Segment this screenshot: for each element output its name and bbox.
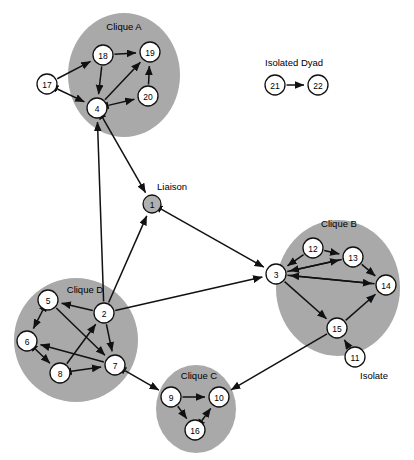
node-1-circle[interactable] — [143, 195, 161, 213]
edge-1-3 — [161, 209, 264, 267]
node-6-circle[interactable] — [17, 331, 37, 351]
node-16[interactable]: 16 — [185, 420, 205, 440]
annotation-isolated-dyad: Isolated Dyad — [265, 57, 323, 68]
node-16-circle[interactable] — [185, 420, 205, 440]
edge-2-4 — [97, 122, 103, 302]
node-4-circle[interactable] — [87, 98, 107, 118]
node-15-circle[interactable] — [327, 318, 347, 338]
edge-7-9 — [125, 371, 159, 390]
node-8[interactable]: 8 — [50, 363, 70, 383]
group-label-clique-c: Clique C — [181, 370, 218, 381]
node-17-circle[interactable] — [37, 74, 57, 94]
node-21-circle[interactable] — [265, 75, 285, 95]
edge-20-19 — [149, 66, 150, 85]
node-11-circle[interactable] — [345, 347, 365, 367]
node-12[interactable]: 12 — [303, 238, 323, 258]
node-10[interactable]: 10 — [209, 387, 229, 407]
node-13[interactable]: 13 — [343, 247, 363, 267]
node-18[interactable]: 18 — [93, 45, 113, 65]
node-1[interactable]: 1 — [143, 195, 161, 213]
node-9-circle[interactable] — [161, 387, 181, 407]
node-20-circle[interactable] — [138, 86, 158, 106]
node-22[interactable]: 22 — [308, 75, 328, 95]
edge-15-10 — [231, 334, 327, 390]
node-2[interactable]: 2 — [94, 303, 114, 323]
group-label-clique-d: Clique D — [67, 284, 104, 295]
node-20[interactable]: 20 — [138, 86, 158, 106]
node-11[interactable]: 11 — [345, 347, 365, 367]
edge-2-1 — [109, 216, 147, 303]
node-2-circle[interactable] — [94, 303, 114, 323]
group-label-clique-b: Clique B — [321, 218, 357, 229]
node-5[interactable]: 5 — [38, 290, 58, 310]
node-7[interactable]: 7 — [105, 355, 125, 375]
node-14[interactable]: 14 — [376, 275, 396, 295]
annotation-liaison: Liaison — [157, 181, 187, 192]
node-13-circle[interactable] — [343, 247, 363, 267]
node-8-circle[interactable] — [50, 363, 70, 383]
node-19[interactable]: 19 — [140, 42, 160, 62]
node-19-circle[interactable] — [140, 42, 160, 62]
node-3[interactable]: 3 — [266, 264, 286, 284]
clique-blobs — [14, 13, 400, 453]
node-5-circle[interactable] — [38, 290, 58, 310]
annotation-isolate: Isolate — [360, 370, 388, 381]
node-3-circle[interactable] — [266, 264, 286, 284]
node-22-circle[interactable] — [308, 75, 328, 95]
node-14-circle[interactable] — [376, 275, 396, 295]
edge-2-3 — [115, 277, 262, 310]
node-12-circle[interactable] — [303, 238, 323, 258]
network-svg: 12345678910111213141516171819202122 Cliq… — [0, 0, 414, 460]
node-10-circle[interactable] — [209, 387, 229, 407]
node-4[interactable]: 4 — [87, 98, 107, 118]
node-18-circle[interactable] — [93, 45, 113, 65]
node-21[interactable]: 21 — [265, 75, 285, 95]
node-17[interactable]: 17 — [37, 74, 57, 94]
node-7-circle[interactable] — [105, 355, 125, 375]
node-15[interactable]: 15 — [327, 318, 347, 338]
group-label-clique-a: Clique A — [106, 21, 142, 32]
node-6[interactable]: 6 — [17, 331, 37, 351]
node-9[interactable]: 9 — [161, 387, 181, 407]
network-diagram-canvas: 12345678910111213141516171819202122 Cliq… — [0, 0, 414, 460]
